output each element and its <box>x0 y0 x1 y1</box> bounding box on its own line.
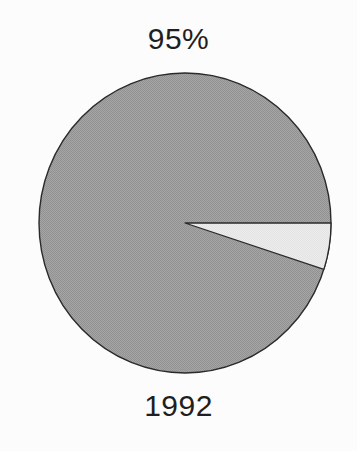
pie-chart <box>0 0 357 451</box>
chart-year-label: 1992 <box>0 389 357 423</box>
pie-chart-figure: 95% 1992 <box>0 0 357 451</box>
